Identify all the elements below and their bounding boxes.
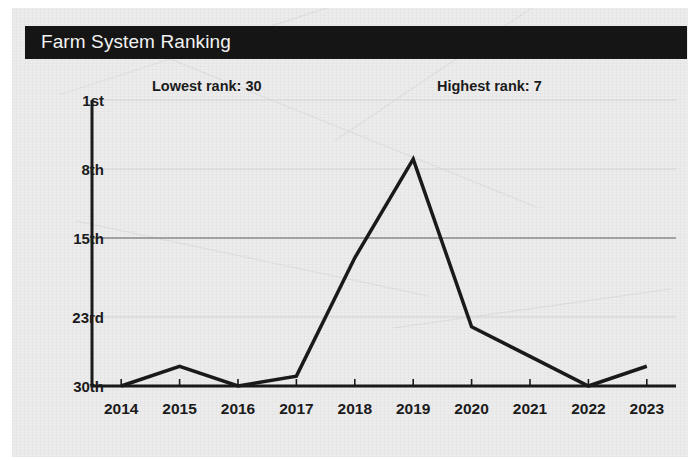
x-axis-tick-label: 2014 [104,400,138,418]
y-axis-tick-label: 1st [82,92,104,109]
x-axis-tick-label: 2015 [162,400,196,418]
x-axis-tick-label: 2019 [396,400,430,418]
data-line [121,159,647,386]
x-axis-tick-label: 2023 [630,400,664,418]
y-axis-labels: 1st8th15th23rd30th [60,8,104,457]
chart-card: Farm System Ranking Lowest rank: 30 High… [12,8,688,457]
y-axis-tick-label: 8th [82,161,105,178]
y-axis-tick-label: 15th [73,230,104,247]
x-axis-tick-label: 2016 [221,400,255,418]
y-axis-tick-label: 23rd [72,308,104,325]
x-axis-tick-label: 2022 [571,400,605,418]
x-axis-tick-label: 2017 [279,400,313,418]
x-axis-tick-label: 2021 [513,400,547,418]
x-axis-tick-label: 2020 [454,400,488,418]
scanned-page: Farm System Ranking Lowest rank: 30 High… [0,0,688,461]
line-chart-plot [12,8,688,457]
y-axis-tick-label: 30th [73,378,104,395]
x-axis-tick-label: 2018 [338,400,372,418]
